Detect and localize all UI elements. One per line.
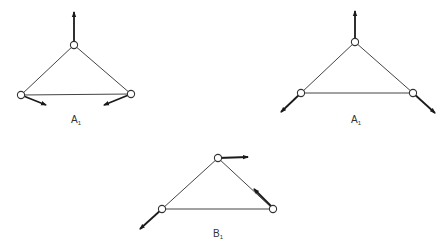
truss-member — [218, 158, 273, 209]
label-subscript: 1 — [78, 120, 81, 126]
figure-label-a1-right: A1 — [351, 115, 361, 126]
force-arrow-icon — [218, 157, 248, 158]
triangle-figure-a1-right — [281, 11, 435, 113]
joint-node-icon — [409, 89, 416, 96]
figure-label-a1-left: A1 — [71, 115, 81, 126]
truss-diagrams — [0, 0, 446, 250]
label-main: A — [71, 114, 78, 125]
truss-member — [21, 94, 131, 95]
truss-member — [355, 42, 413, 93]
joint-node-icon — [269, 205, 276, 212]
joint-node-icon — [127, 90, 134, 97]
truss-member — [162, 158, 218, 209]
force-arrow-icon — [254, 189, 271, 206]
force-arrow-icon — [104, 94, 131, 105]
figure-label-b1: B1 — [213, 229, 223, 240]
label-main: B — [213, 228, 220, 239]
joint-node-icon — [214, 154, 221, 161]
label-subscript: 1 — [358, 120, 361, 126]
joint-node-icon — [351, 38, 358, 45]
joint-node-icon — [70, 41, 77, 48]
truss-member — [21, 45, 74, 95]
truss-member — [301, 42, 355, 93]
diagram-canvas: A1 A1 B1 — [0, 0, 446, 250]
label-main: A — [351, 114, 358, 125]
joint-node-icon — [17, 91, 24, 98]
triangle-figure-a1-left — [17, 12, 134, 105]
label-subscript: 1 — [220, 234, 223, 240]
force-arrow-icon — [140, 209, 162, 229]
force-arrow-icon — [413, 93, 435, 113]
joint-node-icon — [158, 205, 165, 212]
truss-member — [74, 45, 131, 94]
triangle-figure-b1 — [140, 154, 277, 229]
joint-node-icon — [297, 89, 304, 96]
